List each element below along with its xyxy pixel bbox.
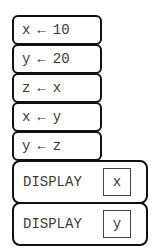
display-argument: y: [113, 216, 121, 232]
assign-variable: y: [22, 51, 30, 67]
assign-value: 10: [53, 22, 70, 38]
assign-value: 20: [53, 51, 70, 67]
display-argument-box: x: [103, 168, 131, 196]
assign-block-3: z ← x: [12, 73, 102, 103]
assign-block-2: y ← 20: [12, 44, 102, 74]
assign-block-4: x ← y: [12, 102, 102, 132]
display-argument-box: y: [103, 210, 131, 238]
assign-block-1: x ← 10: [12, 15, 102, 45]
assign-value: z: [53, 138, 61, 154]
display-argument: x: [113, 174, 121, 190]
display-label: DISPLAY: [23, 174, 82, 190]
assign-variable: x: [22, 109, 30, 125]
left-arrow-icon: ←: [37, 22, 45, 38]
left-arrow-icon: ←: [37, 51, 45, 67]
display-block-1: DISPLAY x: [12, 160, 148, 204]
assign-variable: y: [22, 138, 30, 154]
left-arrow-icon: ←: [37, 138, 45, 154]
assign-variable: z: [22, 80, 30, 96]
assign-block-5: y ← z: [12, 131, 102, 161]
assign-value: x: [53, 80, 61, 96]
assign-value: y: [53, 109, 61, 125]
left-arrow-icon: ←: [37, 109, 45, 125]
display-label: DISPLAY: [23, 216, 82, 232]
assign-variable: x: [22, 22, 30, 38]
left-arrow-icon: ←: [37, 80, 45, 96]
display-block-2: DISPLAY y: [12, 202, 148, 246]
